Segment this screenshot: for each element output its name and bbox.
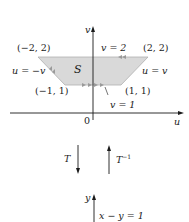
vertex-label-2-2: (2, 2) (143, 43, 169, 53)
u-axis-arrow-icon (178, 111, 184, 115)
vertex-label-neg1-1: (−1, 1) (35, 86, 69, 96)
boundary-right-label: u = v (142, 66, 168, 76)
t-label: T (64, 154, 70, 164)
y-axis-arrow-icon (92, 194, 96, 200)
boundary-left-label: u = −v (12, 66, 45, 76)
y-axis-label: y (85, 193, 90, 203)
t-inverse-superscript: −1 (122, 153, 131, 160)
boundary-bottom-label: v = 1 (110, 100, 135, 110)
region-label: S (74, 64, 82, 75)
v-axis-arrow-icon (91, 26, 95, 32)
vertex-label-1-1: (1, 1) (125, 86, 151, 96)
u-axis-label: u (174, 117, 180, 127)
boundary-top-label: v = 2 (101, 43, 126, 53)
t-arrow-head-icon (76, 168, 80, 174)
v1-pointer (105, 87, 108, 95)
v-axis-label: v (85, 25, 90, 35)
t-inverse-arrow-head-icon (107, 145, 111, 151)
diagram-canvas (0, 0, 189, 222)
origin-label: 0 (84, 116, 90, 126)
t-inverse-label: T−1 (116, 154, 131, 165)
vertex-label-neg2-2: (−2, 2) (17, 43, 51, 53)
line-label: x − y = 1 (99, 211, 144, 221)
